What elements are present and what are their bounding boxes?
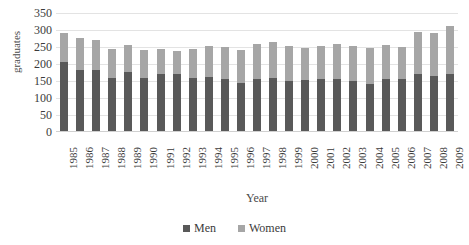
legend-swatch-icon — [183, 225, 190, 232]
x-axis-tick-labels: 1985198619871988198919901991199219931994… — [56, 133, 458, 189]
bar-2001 — [317, 13, 325, 132]
bar-segment-women — [349, 46, 357, 81]
bar-segment-women — [60, 33, 68, 62]
bar-segment-men — [140, 78, 148, 132]
bar-2006 — [398, 13, 406, 132]
y-axis-tick-label: 150 — [34, 76, 52, 86]
bar-segment-men — [349, 81, 357, 132]
chart-legend: MenWomen — [0, 218, 469, 238]
bar-segment-women — [398, 47, 406, 79]
x-axis-title: Year — [56, 191, 458, 206]
bar-segment-women — [366, 48, 374, 85]
bar-segment-men — [414, 74, 422, 132]
bar-segment-women — [157, 49, 165, 74]
x-axis-tick-label: 2003 — [357, 147, 368, 169]
bar-segment-men — [366, 84, 374, 132]
bar-segment-men — [269, 78, 277, 132]
x-axis-tick-label: 2001 — [325, 147, 336, 169]
legend-label: Women — [249, 222, 286, 234]
x-axis-tick-label: 1999 — [293, 147, 304, 169]
bar-1989 — [124, 13, 132, 132]
bar-1995 — [221, 13, 229, 132]
bar-2005 — [382, 13, 390, 132]
bar-1985 — [60, 13, 68, 132]
legend-swatch-icon — [238, 225, 245, 232]
x-axis-tick-label: 2004 — [374, 147, 385, 169]
bar-segment-women — [430, 33, 438, 76]
x-axis-tick-label: 2009 — [454, 147, 465, 169]
bar-1990 — [140, 13, 148, 132]
x-axis-tick-label: 1987 — [100, 147, 111, 169]
bar-1987 — [92, 13, 100, 132]
bar-1996 — [237, 13, 245, 132]
x-axis-tick-label: 1997 — [261, 147, 272, 169]
bar-segment-women — [205, 46, 213, 77]
bar-segment-men — [205, 77, 213, 132]
bar-segment-men — [398, 79, 406, 132]
bar-segment-men — [60, 62, 68, 132]
x-axis-tick-label: 1992 — [181, 147, 192, 169]
x-axis-tick-label: 1991 — [165, 147, 176, 169]
bar-2000 — [301, 13, 309, 132]
bar-series-group — [56, 13, 458, 132]
x-axis-tick-label: 2005 — [390, 147, 401, 169]
y-axis-tick-labels: 050100150200250300350 — [18, 8, 52, 132]
x-axis-tick-label: 1989 — [132, 147, 143, 169]
bar-segment-women — [414, 32, 422, 74]
x-axis-tick-label: 1995 — [229, 147, 240, 169]
bar-segment-men — [76, 70, 84, 132]
x-axis-tick-label: 1993 — [197, 147, 208, 169]
x-axis-tick-label: 1986 — [84, 147, 95, 169]
y-axis-tick-label: 250 — [34, 42, 52, 52]
bar-2008 — [430, 13, 438, 132]
legend-item-women[interactable]: Women — [238, 222, 286, 234]
y-axis-tick-label: 0 — [46, 127, 52, 137]
bar-segment-women — [285, 46, 293, 81]
x-axis-tick-label: 2000 — [309, 147, 320, 169]
bar-1991 — [157, 13, 165, 132]
bar-segment-women — [446, 26, 454, 75]
bar-segment-men — [446, 74, 454, 132]
bar-1999 — [285, 13, 293, 132]
y-axis-tick-label: 300 — [34, 25, 52, 35]
bar-segment-women — [173, 51, 181, 74]
bar-segment-men — [237, 83, 245, 132]
bar-segment-women — [237, 50, 245, 83]
bar-segment-men — [430, 76, 438, 132]
bar-segment-men — [189, 78, 197, 132]
bar-segment-women — [76, 38, 84, 71]
bar-2003 — [349, 13, 357, 132]
bar-1992 — [173, 13, 181, 132]
bar-segment-women — [221, 47, 229, 80]
x-axis-tick-label: 1988 — [116, 147, 127, 169]
bar-segment-women — [317, 46, 325, 79]
bar-segment-men — [173, 74, 181, 132]
bar-segment-men — [382, 79, 390, 132]
bar-1998 — [269, 13, 277, 132]
bar-1994 — [205, 13, 213, 132]
x-axis-tick-label: 2002 — [341, 147, 352, 169]
bar-segment-men — [108, 78, 116, 132]
plot-area — [56, 13, 458, 132]
bar-1988 — [108, 13, 116, 132]
bar-2004 — [366, 13, 374, 132]
legend-item-men[interactable]: Men — [183, 222, 216, 234]
bar-1997 — [253, 13, 261, 132]
x-axis-tick-label: 2006 — [406, 147, 417, 169]
bar-segment-men — [253, 79, 261, 132]
x-axis-tick-label: 1994 — [213, 147, 224, 169]
bar-segment-women — [124, 45, 132, 72]
bar-segment-women — [301, 48, 309, 80]
bar-segment-men — [124, 72, 132, 132]
x-axis-tick-label: 2008 — [438, 147, 449, 169]
bar-segment-women — [140, 50, 148, 77]
bar-segment-women — [382, 45, 390, 79]
legend-label: Men — [194, 222, 216, 234]
bar-segment-men — [301, 80, 309, 132]
x-axis-tick-label: 1998 — [277, 147, 288, 169]
y-axis-tick-label: 350 — [34, 8, 52, 18]
bar-2009 — [446, 13, 454, 132]
bar-segment-men — [285, 81, 293, 132]
bar-segment-men — [92, 70, 100, 132]
x-axis-tick-label: 1990 — [148, 147, 159, 169]
